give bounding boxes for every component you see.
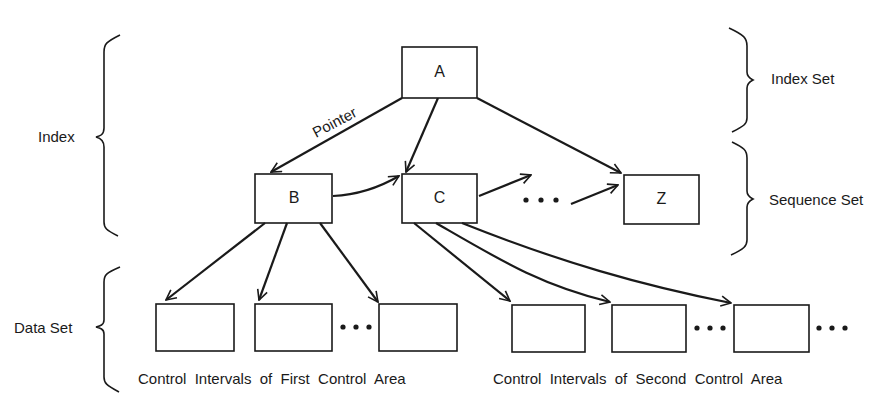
data-set-label: Data Set	[14, 319, 73, 336]
control-interval	[255, 304, 332, 351]
edge-a-to-b	[271, 98, 402, 172]
control-interval	[512, 305, 585, 352]
edge-b-to-ci-1-n	[320, 223, 378, 302]
node-z: Z	[624, 175, 699, 224]
node-b: B	[255, 174, 332, 223]
first-control-area	[156, 304, 457, 351]
control-interval	[156, 304, 234, 351]
node-c: C	[402, 174, 477, 223]
edge-c-to-next	[479, 175, 531, 196]
data-set-brace	[96, 267, 120, 392]
index-brace	[96, 35, 120, 236]
diagram-canvas: Index Data Set Index Set Sequence Set Po…	[0, 0, 893, 409]
control-interval	[734, 305, 809, 352]
node-c-label: C	[434, 189, 446, 206]
edge-b-to-ci-1-1	[166, 223, 265, 300]
first-control-area-caption: Control Intervals of First Control Area	[138, 370, 406, 387]
edge-a-to-z	[477, 98, 621, 173]
node-a: A	[402, 47, 477, 98]
node-z-label: Z	[657, 190, 667, 207]
edge-b-to-c	[333, 176, 399, 196]
control-interval	[612, 305, 686, 352]
control-interval-ellipsis	[694, 325, 725, 330]
index-label: Index	[38, 128, 75, 145]
sequence-set-label: Sequence Set	[769, 191, 864, 208]
index-set-label: Index Set	[771, 70, 835, 87]
trailing-ellipsis	[816, 325, 847, 330]
edge-prev-to-z	[571, 185, 618, 204]
index-set-brace	[729, 28, 753, 132]
edge-a-to-c	[406, 98, 438, 172]
edge-c-to-ci-2-n	[462, 223, 731, 303]
control-interval-ellipsis	[340, 324, 371, 329]
control-interval	[379, 304, 457, 351]
edge-b-to-ci-1-2	[259, 223, 287, 300]
edge-c-to-ci-2-1	[414, 223, 510, 301]
node-b-label: B	[289, 189, 300, 206]
node-a-label: A	[434, 63, 445, 80]
second-control-area	[512, 305, 848, 352]
sequence-ellipsis	[523, 197, 558, 202]
sequence-set-brace	[731, 142, 753, 255]
second-control-area-caption: Control Intervals of Second Control Area	[493, 370, 783, 387]
